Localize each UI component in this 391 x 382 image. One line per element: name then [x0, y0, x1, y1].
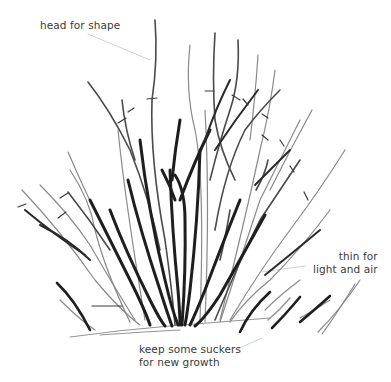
- annotation-keep-suckers: keep some suckers for new growth: [139, 343, 241, 369]
- dark-canes: [90, 120, 265, 326]
- annotation-keep-line2: for new growth: [139, 356, 241, 369]
- annotation-thin-line2: light and air: [313, 263, 378, 276]
- suckers: [57, 283, 330, 332]
- sucker-light: [268, 298, 290, 320]
- annotation-keep-line1: keep some suckers: [139, 343, 241, 356]
- annotation-head-for-shape: head for shape: [40, 19, 120, 32]
- annotation-thin-for-light: thin for light and air: [313, 250, 378, 276]
- annotation-thin-line1: thin for: [313, 250, 378, 263]
- shrub-illustration: [0, 0, 391, 382]
